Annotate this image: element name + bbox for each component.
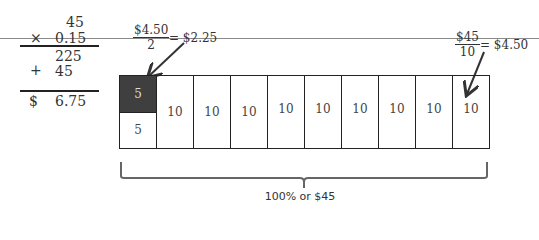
tape-cell: 10 [452,76,489,148]
tape-cell: 10 [378,76,415,148]
tape-half-shaded: 5 [120,76,156,113]
brace-label: 100% or $45 [265,190,336,203]
tape-cell: 10 [267,76,304,148]
tape-cell: 10 [304,76,341,148]
tape-cell: 10 [415,76,452,148]
tape-half-unshaded: 5 [120,113,156,149]
tape-diagram: 5 5 10 10 10 10 10 10 10 10 10 [119,75,490,149]
left-arrow-icon [149,43,184,76]
tape-cell-split: 5 5 [120,76,156,148]
tape-cell: 10 [193,76,230,148]
tape-cell: 10 [230,76,267,148]
tape-cell: 10 [341,76,378,148]
brace-icon [121,162,487,188]
tape-cell: 10 [156,76,193,148]
